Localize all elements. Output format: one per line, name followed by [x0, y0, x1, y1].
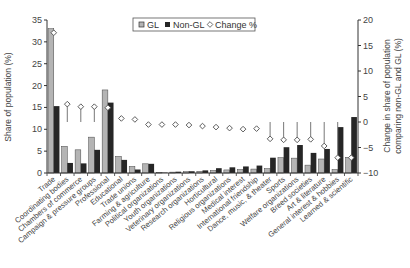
nongl-bar: [297, 145, 303, 173]
gl-bar: [62, 146, 68, 173]
nongl-bar: [94, 150, 100, 173]
change-marker: [132, 117, 138, 123]
gl-bar: [264, 169, 270, 173]
gl-bar: [251, 169, 257, 173]
right-tick-label: 5: [363, 92, 368, 102]
right-tick-label: −5: [363, 143, 373, 153]
nongl-bar: [284, 147, 290, 173]
right-tick-label: 10: [363, 66, 373, 76]
gl-bar: [75, 150, 81, 173]
plot-area: [48, 29, 357, 173]
change-marker: [173, 122, 179, 128]
change-marker: [186, 122, 192, 128]
change-marker: [119, 116, 125, 122]
gl-bar: [305, 165, 311, 173]
gl-bar: [102, 90, 108, 173]
nongl-bar: [243, 166, 249, 173]
legend-gl-label: GL: [147, 20, 159, 30]
gl-bar: [143, 164, 149, 173]
change-marker: [159, 122, 165, 128]
left-tick-label: 0: [37, 168, 42, 178]
change-marker: [146, 122, 152, 128]
nongl-bar: [311, 153, 317, 173]
nongl-bar: [121, 160, 127, 173]
right-tick-label: 15: [363, 41, 373, 51]
right-tick-label: 20: [363, 15, 373, 25]
change-marker: [254, 126, 260, 132]
right-axis-title-line1: Change in share of population: [382, 39, 392, 153]
left-tick-label: 5: [37, 146, 42, 156]
change-marker: [267, 136, 273, 142]
gl-bar: [48, 29, 54, 173]
nongl-bar: [216, 168, 222, 173]
change-marker: [78, 104, 84, 110]
bar-chart: 05101520253035 −10−505101520 TradeCoordi…: [0, 0, 410, 268]
legend-nongl-swatch: [165, 22, 170, 27]
change-marker: [308, 137, 314, 143]
nongl-bar: [135, 170, 141, 173]
nongl-bar: [270, 158, 276, 173]
nongl-bar: [54, 106, 60, 173]
legend: GL Non-GL Change %: [133, 18, 257, 31]
right-axis-title-line2: comparing non-GL and GL (%): [393, 38, 403, 154]
left-tick-label: 10: [32, 124, 42, 134]
gl-bar: [237, 170, 243, 173]
gl-bar: [129, 166, 135, 173]
right-tick-label: −10: [363, 168, 378, 178]
gl-bar: [278, 158, 284, 173]
nongl-bar: [81, 163, 87, 173]
legend-gl-swatch: [139, 22, 144, 27]
nongl-bar: [338, 127, 344, 173]
change-marker: [294, 137, 300, 143]
change-marker: [91, 104, 97, 110]
left-tick-label: 20: [32, 81, 42, 91]
gl-bar: [332, 170, 338, 173]
gl-bar: [116, 156, 122, 173]
change-marker: [213, 124, 219, 130]
gl-bar: [319, 159, 325, 173]
change-marker: [200, 123, 206, 129]
nongl-bar: [257, 166, 263, 173]
nongl-bar: [108, 103, 114, 173]
change-marker: [281, 137, 287, 143]
left-tick-label: 25: [32, 59, 42, 69]
left-axis-title: Share of population (%): [3, 52, 13, 141]
change-marker: [321, 143, 327, 149]
left-tick-label: 15: [32, 102, 42, 112]
nongl-bar: [67, 163, 73, 173]
legend-change-label: Change %: [215, 20, 257, 30]
nongl-bar: [230, 167, 236, 173]
change-marker: [240, 126, 246, 132]
left-y-axis: 05101520253035: [32, 15, 47, 178]
left-tick-label: 30: [32, 37, 42, 47]
gl-bar: [291, 158, 297, 173]
change-marker: [227, 125, 233, 131]
right-y-axis: −10−505101520: [358, 15, 378, 178]
right-tick-label: 0: [363, 117, 368, 127]
nongl-bar: [324, 149, 330, 173]
nongl-bar: [351, 117, 357, 173]
nongl-bar: [148, 164, 154, 173]
legend-nongl-label: Non-GL: [173, 20, 205, 30]
x-axis: TradeCoordinating bodiesChambers of comm…: [13, 173, 358, 245]
gl-bar: [89, 137, 95, 173]
change-marker: [64, 101, 70, 107]
left-tick-label: 35: [32, 15, 42, 25]
